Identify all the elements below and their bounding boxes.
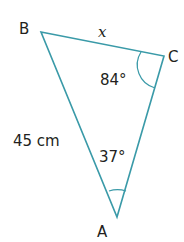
- angle-label-a: 37°: [99, 148, 126, 166]
- vertex-label-c: C: [168, 48, 178, 66]
- side-label-ab: 45 cm: [13, 132, 60, 150]
- angle-label-c: 84°: [100, 71, 127, 89]
- angle-arc-a: [109, 190, 126, 191]
- angle-arc-c: [137, 52, 155, 88]
- vertex-label-b: B: [19, 20, 29, 38]
- vertex-label-a: A: [97, 223, 108, 241]
- side-label-bc: x: [98, 23, 107, 41]
- triangle-abc: [41, 32, 164, 217]
- triangle-diagram: B C A x 45 cm 84° 37°: [0, 0, 184, 242]
